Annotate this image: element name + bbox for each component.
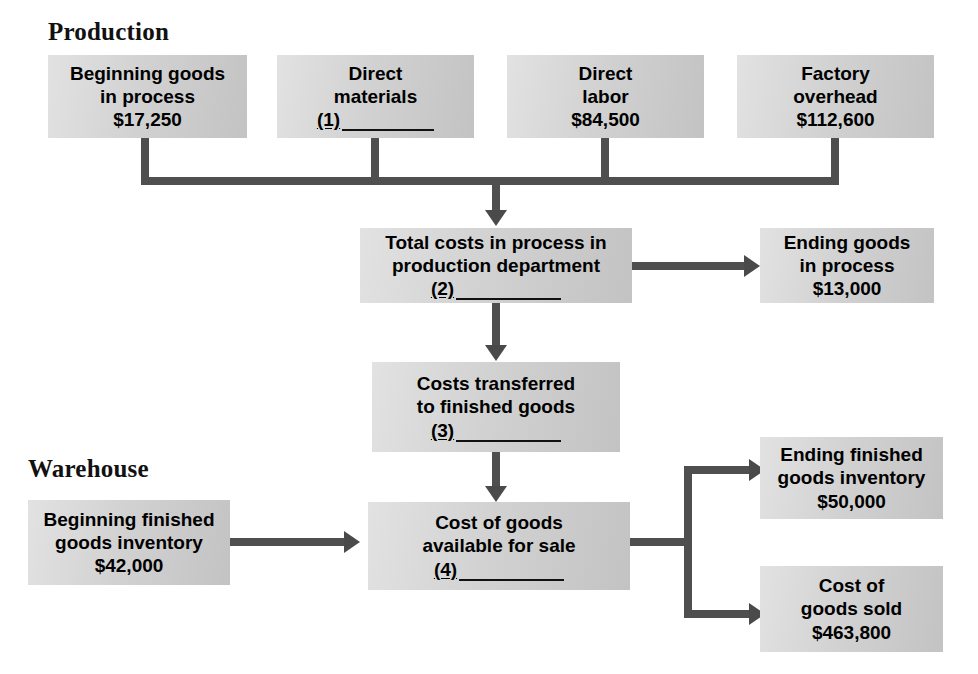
box-line-1: Cost of goods	[435, 511, 563, 534]
arrowhead-down-to-cogs-available	[485, 486, 507, 502]
box-line-2: labor	[582, 85, 628, 108]
box-value: $463,800	[812, 621, 891, 644]
box-cost-of-goods-sold: Cost of goods sold $463,800	[760, 566, 943, 652]
box-line-1: Beginning finished	[44, 508, 215, 531]
box-line-1: Total costs in process in	[385, 231, 606, 254]
box-line-2: production department	[392, 254, 600, 277]
box-line-1: Ending goods	[784, 231, 911, 254]
box-total-costs-in-process: Total costs in process in production dep…	[360, 228, 632, 303]
blank-number: (4)	[434, 558, 457, 581]
section-title-production: Production	[48, 18, 169, 46]
blank-rule	[459, 561, 564, 580]
box-line-1: Ending finished	[780, 443, 923, 466]
box-ending-goods-in-process: Ending goods in process $13,000	[760, 228, 934, 303]
blank-rule	[342, 112, 434, 131]
connector-stem-to-total-costs	[492, 182, 500, 212]
connector-total-costs-to-ending-goods	[632, 262, 746, 270]
arrowhead-right-to-ending-goods	[744, 255, 760, 277]
box-line-1: Direct	[349, 62, 403, 85]
box-line-2: goods sold	[801, 597, 902, 620]
box-value: $13,000	[813, 277, 882, 300]
box-cost-of-goods-available-for-sale: Cost of goods available for sale (4)	[368, 502, 630, 590]
box-line-2: in process	[799, 254, 894, 277]
box-value: $84,500	[571, 108, 640, 131]
box-ending-finished-goods-inventory: Ending finished goods inventory $50,000	[760, 437, 943, 519]
arrowhead-right-to-cogs-available	[344, 531, 360, 553]
connector-split-riser	[684, 466, 692, 618]
flowchart-canvas: Production Warehouse Beginning goods in …	[0, 0, 978, 674]
box-line-2: available for sale	[422, 534, 575, 557]
box-blank-answer-line[interactable]: (2)	[431, 277, 561, 300]
connector-drop-direct-materials	[371, 138, 379, 182]
box-blank-answer-line[interactable]: (1)	[317, 108, 434, 131]
blank-rule	[456, 281, 561, 300]
box-value: $17,250	[113, 108, 182, 131]
blank-number: (3)	[431, 419, 454, 442]
connector-drop-factory-overhead	[831, 138, 839, 182]
box-factory-overhead: Factory overhead $112,600	[737, 55, 934, 138]
box-direct-labor: Direct labor $84,500	[507, 55, 704, 138]
box-line-2: in process	[100, 85, 195, 108]
connector-branch-to-cost-of-goods-sold	[684, 610, 752, 618]
box-line-2: goods inventory	[55, 531, 203, 554]
box-line-1: Beginning goods	[70, 62, 225, 85]
box-beginning-goods-in-process: Beginning goods in process $17,250	[48, 55, 247, 138]
connector-drop-beginning-goods	[141, 138, 149, 182]
box-value: $112,600	[796, 108, 874, 131]
section-title-warehouse: Warehouse	[28, 455, 149, 483]
box-line-1: Costs transferred	[417, 372, 575, 395]
connector-stub-from-cogs-available	[630, 538, 692, 546]
connector-branch-to-ending-finished-goods	[684, 466, 752, 474]
box-line-1: Factory	[801, 62, 870, 85]
connector-total-costs-to-costs-transferred	[492, 303, 500, 347]
blank-number: (2)	[431, 277, 454, 300]
connector-beginning-fg-to-cogs-available	[230, 538, 346, 546]
box-value: $42,000	[95, 554, 164, 577]
box-blank-answer-line[interactable]: (3)	[431, 419, 561, 442]
arrowhead-down-to-total-costs	[485, 210, 507, 226]
connector-drop-direct-labor	[601, 138, 609, 182]
connector-horizontal-bus	[141, 177, 839, 185]
arrowhead-down-to-costs-transferred	[485, 345, 507, 361]
box-costs-transferred-to-finished-goods: Costs transferred to finished goods (3)	[372, 362, 620, 452]
blank-number: (1)	[317, 108, 340, 131]
box-line-1: Direct	[579, 62, 633, 85]
box-direct-materials: Direct materials (1)	[277, 55, 474, 138]
connector-costs-transferred-to-cogs-available	[492, 452, 500, 488]
box-line-2: overhead	[793, 85, 877, 108]
box-line-2: materials	[334, 85, 417, 108]
box-line-2: to finished goods	[417, 395, 575, 418]
box-beginning-finished-goods-inventory: Beginning finished goods inventory $42,0…	[28, 500, 230, 585]
box-line-1: Cost of	[819, 574, 884, 597]
box-line-2: goods inventory	[778, 466, 926, 489]
blank-rule	[456, 422, 561, 441]
box-value: $50,000	[817, 490, 886, 513]
box-blank-answer-line[interactable]: (4)	[434, 558, 564, 581]
